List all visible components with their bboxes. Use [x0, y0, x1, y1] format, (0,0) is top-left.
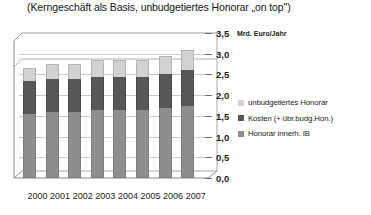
bar-segment-kosten	[91, 77, 104, 110]
bar-segment-unbudgetiertes-honorar	[91, 60, 104, 77]
legend-item-label: Honorar innerh. IB	[248, 129, 310, 138]
y-axis-tick	[205, 137, 212, 138]
bar-segment-unbudgetiertes-honorar	[113, 60, 126, 77]
bar-column	[68, 64, 81, 178]
bar-column	[136, 60, 149, 178]
bar-segment-honorar-innerhalb-ib	[46, 112, 59, 178]
bar-segment-kosten	[23, 81, 36, 114]
bar-group	[19, 33, 205, 178]
x-axis-tick-label: 2007	[186, 191, 206, 201]
bar-segment-unbudgetiertes-honorar	[181, 50, 194, 71]
y-axis-tick-label: 2,5	[216, 69, 229, 80]
y-axis-tick-label: 0,5	[216, 152, 229, 163]
y-axis-tick	[205, 116, 212, 117]
legend-item[interactable]: Honorar innerh. IB	[238, 129, 333, 138]
legend-swatch-icon	[238, 131, 244, 137]
bar-segment-kosten	[68, 79, 81, 112]
bar-segment-honorar-innerhalb-ib	[136, 110, 149, 178]
legend-item-label: Kosten (+ übr.budg.Hon.)	[248, 114, 333, 123]
x-axis-tick-label: 2004	[118, 191, 138, 201]
bar-segment-kosten	[46, 79, 59, 112]
y-axis-tick-label: 1,5	[216, 110, 229, 121]
bar-segment-honorar-innerhalb-ib	[68, 112, 81, 178]
bar-segment-honorar-innerhalb-ib	[23, 114, 36, 178]
chart-legend: unbudgetiertes HonorarKosten (+ übr.budg…	[238, 98, 333, 145]
y-axis-tick	[205, 74, 212, 75]
x-axis-tick-label: 2002	[73, 191, 93, 201]
y-axis-tick-label: 1,0	[216, 131, 229, 142]
bar-segment-unbudgetiertes-honorar	[23, 68, 36, 80]
x-axis-tick-label: 2001	[50, 191, 70, 201]
y-axis-tick	[205, 178, 212, 179]
x-axis-tick-label: 2006	[163, 191, 183, 201]
bar-segment-kosten	[159, 74, 172, 107]
x-axis-tick-label: 2000	[27, 191, 47, 201]
bar-segment-honorar-innerhalb-ib	[159, 108, 172, 178]
bar-segment-unbudgetiertes-honorar	[159, 56, 172, 75]
y-axis-tick	[205, 95, 212, 96]
legend-swatch-icon	[238, 115, 244, 121]
bar-segment-unbudgetiertes-honorar	[46, 64, 59, 79]
bar-column	[91, 60, 104, 178]
y-axis-unit-label: Mrd. Euro/Jahr	[237, 30, 286, 37]
y-axis-tick-label: 2,0	[216, 90, 229, 101]
bar-segment-unbudgetiertes-honorar	[136, 60, 149, 77]
legend-item[interactable]: Kosten (+ übr.budg.Hon.)	[238, 114, 333, 123]
bar-column	[159, 56, 172, 178]
y-axis-tick	[205, 157, 212, 158]
x-axis-tick-label: 2005	[140, 191, 160, 201]
bar-segment-honorar-innerhalb-ib	[113, 110, 126, 178]
legend-swatch-icon	[238, 100, 244, 106]
bar-segment-honorar-innerhalb-ib	[181, 106, 194, 179]
bar-column	[181, 50, 194, 178]
bar-column	[23, 68, 36, 178]
bar-segment-honorar-innerhalb-ib	[91, 110, 104, 178]
y-axis-tick-label: 0,0	[216, 173, 229, 184]
bar-column	[113, 60, 126, 178]
x-axis-tick-label: 2003	[95, 191, 115, 201]
bar-segment-unbudgetiertes-honorar	[68, 64, 81, 79]
chart-root: (Kerngeschäft als Basis, unbudgetiertes …	[0, 0, 371, 215]
y-axis-tick	[205, 33, 212, 34]
y-axis-tick-label: 3,0	[216, 48, 229, 59]
x-axis-labels: 20002001200220032004200520062007	[13, 191, 218, 207]
y-axis-tick-label: 3,5	[216, 28, 229, 39]
legend-item-label: unbudgetiertes Honorar	[248, 98, 328, 107]
y-axis-tick	[205, 54, 212, 55]
legend-item[interactable]: unbudgetiertes Honorar	[238, 98, 333, 107]
bar-column	[46, 64, 59, 178]
bar-segment-kosten	[113, 77, 126, 110]
bar-segment-kosten	[136, 77, 149, 110]
bar-segment-kosten	[181, 70, 194, 105]
